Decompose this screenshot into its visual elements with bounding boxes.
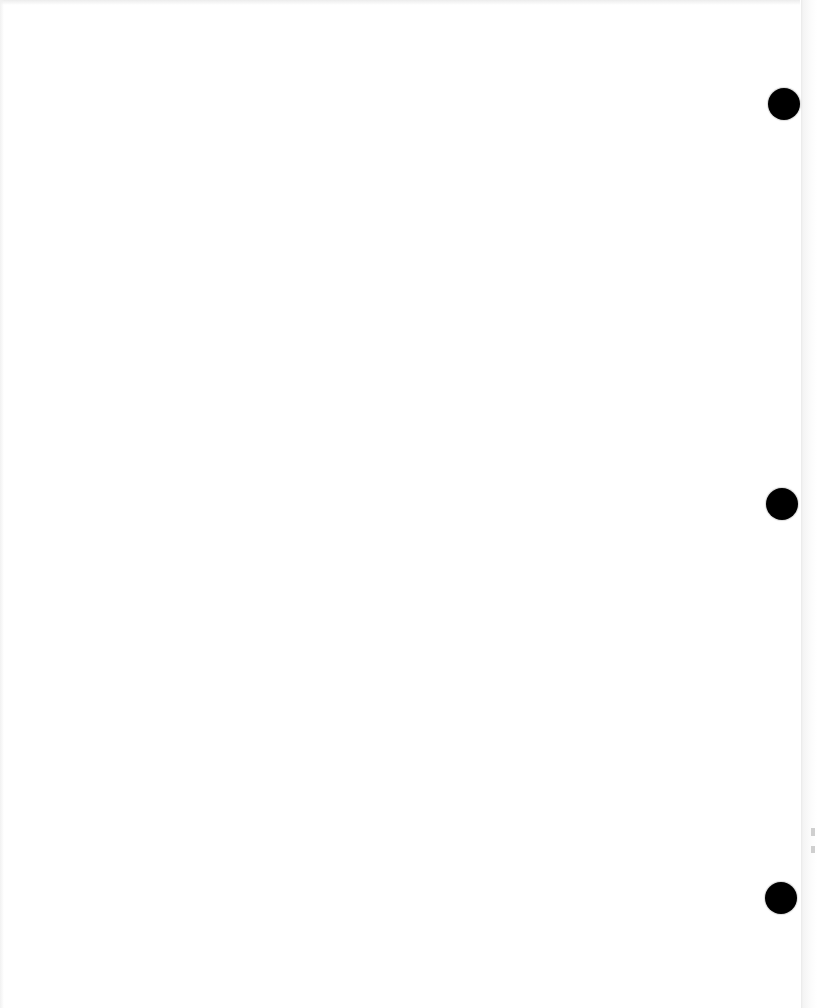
edge-smudge xyxy=(811,828,815,836)
punch-hole-bottom xyxy=(765,882,797,914)
punch-hole-top xyxy=(768,88,800,120)
blank-page xyxy=(0,0,817,1008)
punch-hole-middle xyxy=(766,488,798,520)
edge-smudge xyxy=(811,846,815,853)
right-page-edge xyxy=(800,0,817,1008)
top-scan-edge xyxy=(0,0,817,5)
left-scan-edge xyxy=(0,0,4,1008)
